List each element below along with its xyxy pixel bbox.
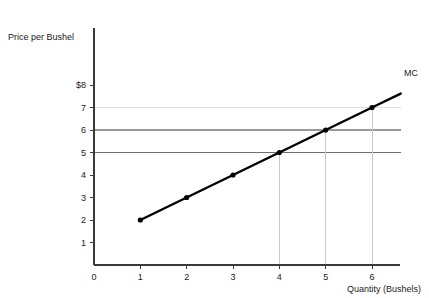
y-tick-label-6: 6 xyxy=(81,125,86,135)
y-tick-label-7: 7 xyxy=(81,103,86,113)
y-tick-label-2: 2 xyxy=(81,215,86,225)
data-point-q2-p3 xyxy=(184,195,189,200)
data-point-q6-p7 xyxy=(369,105,374,110)
x-tick-label-1: 1 xyxy=(138,272,143,282)
chart-axes xyxy=(94,28,400,265)
y-axis-ticks: 1234567$8 xyxy=(76,80,94,248)
mc-series-label: MC xyxy=(404,68,418,78)
series-line-MC xyxy=(140,94,400,220)
mc-curve-group xyxy=(140,94,400,220)
data-point-q5-p6 xyxy=(323,127,328,132)
x-axis-title: Quantity (Bushels) xyxy=(347,284,421,294)
x-tick-label-4: 4 xyxy=(277,272,282,282)
x-tick-label-3: 3 xyxy=(230,272,235,282)
chart-plot-area: 1234567$8 0123456 Price per Bushel Quant… xyxy=(0,0,429,298)
price-reference-lines xyxy=(94,108,401,153)
data-point-q4-p5 xyxy=(277,150,282,155)
x-axis-ticks: 0123456 xyxy=(91,265,374,282)
x-tick-label-2: 2 xyxy=(184,272,189,282)
y-tick-label-$8: $8 xyxy=(76,80,86,90)
x-tick-label-6: 6 xyxy=(369,272,374,282)
marginal-cost-chart: 1234567$8 0123456 Price per Bushel Quant… xyxy=(0,0,429,298)
y-tick-label-5: 5 xyxy=(81,148,86,158)
y-tick-label-1: 1 xyxy=(81,238,86,248)
y-tick-label-3: 3 xyxy=(81,193,86,203)
x-tick-label-0: 0 xyxy=(91,272,96,282)
x-tick-label-5: 5 xyxy=(323,272,328,282)
data-point-q1-p2 xyxy=(138,217,143,222)
y-tick-label-4: 4 xyxy=(81,170,86,180)
data-point-q3-p4 xyxy=(230,172,235,177)
y-axis-title: Price per Bushel xyxy=(8,32,74,42)
